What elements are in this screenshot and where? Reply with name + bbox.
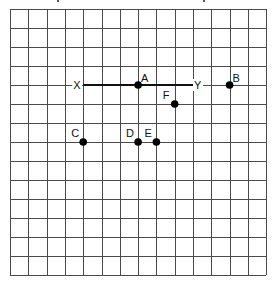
clipped-text-remnant xyxy=(203,0,205,2)
point-label-d: D xyxy=(126,127,134,139)
point-label-a: A xyxy=(141,72,149,84)
grid-diagram: X A Y B F C D E xyxy=(0,0,272,281)
point-label-e: E xyxy=(144,127,151,139)
point-label-f: F xyxy=(163,89,170,101)
point-c xyxy=(79,138,87,146)
point-d xyxy=(134,138,142,146)
point-e xyxy=(153,138,161,146)
point-label-b: B xyxy=(233,72,240,84)
point-f xyxy=(171,100,179,108)
point-label-c: C xyxy=(71,127,79,139)
point-label-y: Y xyxy=(194,79,202,91)
clipped-text-remnant xyxy=(57,0,59,2)
point-label-x: X xyxy=(73,79,81,91)
